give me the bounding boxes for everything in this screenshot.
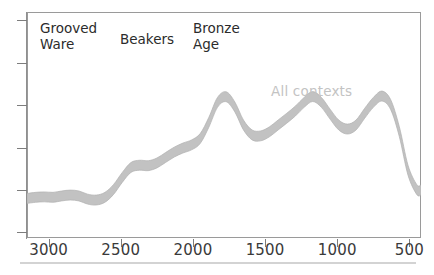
annotation-grooved-ware: Grooved Ware	[40, 20, 97, 52]
x-axis-tick-label: 500	[379, 241, 434, 259]
spd-band-all-contexts	[27, 91, 421, 205]
y-axis-tick	[17, 148, 27, 149]
x-axis-tick-label: 1500	[235, 241, 295, 259]
series-label-all-contexts: All contexts	[271, 83, 352, 99]
y-axis-tick	[17, 20, 27, 21]
y-axis-tick	[17, 105, 27, 106]
annotation-bronze-age: Bronze Age	[193, 20, 240, 52]
y-axis-tick	[17, 190, 27, 191]
y-axis-tick	[17, 63, 27, 64]
x-axis-tick-label: 3000	[19, 241, 79, 259]
annotation-beakers: Beakers	[120, 31, 174, 47]
footer-rule	[20, 262, 416, 264]
x-axis-tick-label: 2500	[91, 241, 151, 259]
x-axis-tick-label: 2000	[163, 241, 223, 259]
y-axis-tick	[17, 232, 27, 233]
chart-figure: 30002500200015001000500 Grooved Ware Bea…	[0, 0, 434, 275]
y-axis-line	[26, 12, 27, 239]
x-axis-tick-label: 1000	[307, 241, 367, 259]
